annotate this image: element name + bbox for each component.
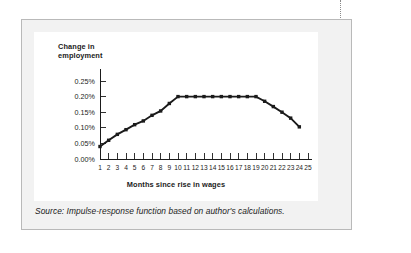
y-tick-label-group: 0.00%0.05%0.10%0.15%0.20%0.25%: [75, 77, 96, 164]
figure-frame: Change in employment 0.00%0.05%0.10%0.15…: [21, 19, 352, 230]
y-tick-label: 0.25%: [75, 77, 96, 86]
y-tick-label: 0.05%: [75, 139, 96, 148]
data-point-marker: [98, 145, 101, 148]
x-tick-label: 15: [218, 164, 226, 171]
y-tick-label: 0.20%: [75, 92, 96, 101]
x-tick-label: 2: [107, 164, 111, 171]
data-point-marker: [150, 114, 153, 117]
data-point-marker: [246, 95, 249, 98]
x-tick-label: 24: [296, 164, 304, 171]
y-tick-label: 0.15%: [75, 108, 96, 117]
x-tick-label: 25: [304, 164, 312, 171]
data-point-marker: [228, 95, 231, 98]
x-tick-label: 9: [167, 164, 171, 171]
x-tick-label: 7: [150, 164, 154, 171]
data-point-marker: [211, 95, 214, 98]
data-point-marker: [176, 95, 179, 98]
x-tick-label: 8: [159, 164, 163, 171]
data-point-marker: [254, 95, 257, 98]
data-point-marker: [298, 125, 301, 128]
data-point-marker: [280, 111, 283, 114]
data-point-marker: [289, 116, 292, 119]
x-tick-label: 17: [235, 164, 243, 171]
x-tick-label: 10: [174, 164, 182, 171]
x-tick-label: 6: [141, 164, 145, 171]
data-point-marker: [272, 105, 275, 108]
series-marker-group: [98, 95, 301, 148]
x-tick-label: 18: [244, 164, 252, 171]
data-point-marker: [220, 95, 223, 98]
chart-panel: Change in employment 0.00%0.05%0.10%0.15…: [34, 32, 318, 201]
data-point-marker: [168, 102, 171, 105]
data-point-marker: [124, 128, 127, 131]
x-tick-label-group: 1234567891011121314151617181920212223242…: [98, 164, 312, 171]
source-note: Source: Impulse-response function based …: [35, 206, 345, 216]
x-tick-label: 22: [278, 164, 286, 171]
x-tick-label: 12: [192, 164, 200, 171]
data-point-marker: [237, 95, 240, 98]
x-tick-label: 21: [270, 164, 278, 171]
x-tick-label: 19: [252, 164, 260, 171]
data-point-marker: [159, 109, 162, 112]
x-tick-mark-group: [100, 153, 308, 159]
line-chart-plot: 0.00%0.05%0.10%0.15%0.20%0.25% 123456789…: [34, 32, 318, 201]
series-line-employment: [100, 97, 299, 147]
x-tick-label: 13: [200, 164, 208, 171]
data-point-marker: [202, 95, 205, 98]
x-tick-label: 5: [133, 164, 137, 171]
x-tick-label: 14: [209, 164, 217, 171]
x-axis-title: Months since rise in wages: [34, 180, 318, 189]
x-tick-label: 1: [98, 164, 102, 171]
y-tick-label: 0.00%: [75, 155, 96, 164]
dotted-connector-line: [340, 0, 341, 20]
data-point-marker: [194, 95, 197, 98]
data-point-marker: [116, 133, 119, 136]
y-tick-label: 0.10%: [75, 123, 96, 132]
x-tick-label: 23: [287, 164, 295, 171]
x-tick-label: 3: [115, 164, 119, 171]
data-point-marker: [142, 119, 145, 122]
x-tick-label: 16: [226, 164, 234, 171]
data-point-marker: [263, 100, 266, 103]
data-point-marker: [185, 95, 188, 98]
data-point-marker: [133, 123, 136, 126]
x-tick-label: 11: [183, 164, 190, 171]
x-tick-label: 20: [261, 164, 269, 171]
x-tick-label: 4: [124, 164, 128, 171]
data-point-marker: [107, 139, 110, 142]
